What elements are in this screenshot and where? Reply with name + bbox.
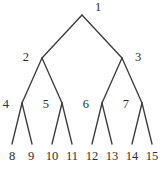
tree-node-label-4: 4 — [3, 97, 10, 111]
tree-diagram-canvas: 123456789101112131415 — [0, 0, 165, 170]
tree-edge-7-15 — [142, 103, 152, 144]
tree-node-label-1: 1 — [95, 0, 101, 14]
leaf-node-label-15: 15 — [146, 149, 159, 163]
tree-node-label-3: 3 — [135, 50, 141, 64]
tree-edge-2-4 — [22, 58, 42, 103]
tree-edge-layer — [12, 15, 152, 144]
tree-edge-5-10 — [52, 103, 62, 144]
tree-node-label-6: 6 — [83, 97, 89, 111]
binary-tree-figure: 123456789101112131415 — [0, 0, 165, 170]
tree-label-layer: 123456789101112131415 — [3, 0, 159, 163]
leaf-node-label-12: 12 — [86, 149, 99, 163]
tree-edge-1-3 — [82, 15, 122, 58]
leaf-node-label-9: 9 — [28, 149, 34, 163]
tree-edge-5-11 — [62, 103, 72, 144]
leaf-node-label-11: 11 — [66, 149, 78, 163]
tree-node-label-2: 2 — [23, 50, 29, 64]
leaf-node-label-10: 10 — [46, 149, 59, 163]
tree-edge-6-13 — [102, 103, 112, 144]
tree-edge-1-2 — [42, 15, 82, 58]
tree-node-label-7: 7 — [123, 97, 129, 111]
leaf-node-label-8: 8 — [9, 149, 15, 163]
tree-node-label-5: 5 — [43, 97, 49, 111]
tree-edge-7-14 — [132, 103, 142, 144]
tree-edge-3-6 — [102, 58, 122, 103]
leaf-node-label-14: 14 — [126, 149, 139, 163]
tree-edge-4-8 — [12, 103, 22, 144]
tree-edge-6-12 — [92, 103, 102, 144]
leaf-node-label-13: 13 — [106, 149, 119, 163]
tree-edge-4-9 — [22, 103, 32, 144]
